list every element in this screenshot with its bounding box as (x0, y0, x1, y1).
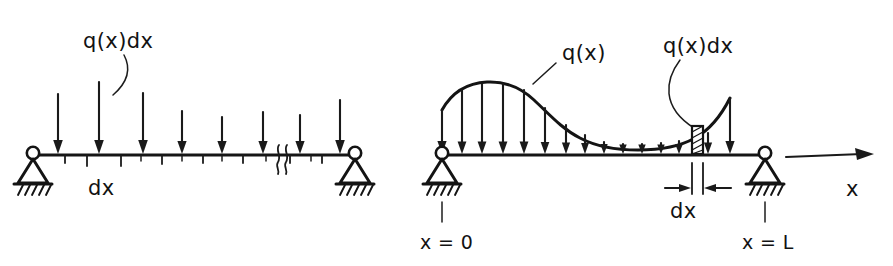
dx-dimension: dx (665, 163, 731, 223)
dx-element-strip (692, 126, 703, 154)
left-load-arrows (53, 82, 345, 154)
load-arrow (520, 90, 529, 154)
right-diagram: q(x) q(x)dx (420, 34, 874, 253)
right-diagram-left-support: x = 0 (420, 147, 473, 253)
left-load-resultant-label: q(x)dx (83, 29, 153, 53)
pin-triangle-icon (340, 159, 370, 183)
ground-hatching-icon (18, 185, 51, 195)
load-arrow (53, 94, 63, 154)
left-beam-break-symbol (277, 145, 287, 174)
load-arrow (138, 93, 148, 154)
left-beam-segment-ticks (65, 155, 322, 166)
load-arrow (295, 115, 304, 154)
station-label-x0: x = 0 (420, 231, 473, 253)
x-axis-shaft (786, 154, 862, 157)
left-beam-minor-ticks (141, 156, 311, 161)
dx-arrow-right-head (704, 184, 716, 192)
pin-circle-icon (349, 147, 361, 159)
load-arrow (258, 112, 267, 154)
ground-hatching-icon (427, 185, 460, 195)
curve-right-ordinate-head (725, 141, 734, 154)
left-dx-label: dx (88, 176, 115, 200)
x-axis-label: x (846, 177, 859, 201)
pin-triangle-icon (427, 159, 457, 183)
load-arrow (94, 82, 104, 154)
figure-canvas: q(x)dx (0, 0, 893, 266)
right-load-resultant-label: q(x)dx (663, 34, 733, 58)
load-arrow (478, 84, 487, 154)
x-axis: x (786, 148, 874, 201)
right-load-function-label: q(x) (562, 41, 606, 65)
x-axis-arrow-head (855, 148, 874, 160)
pin-circle-icon (759, 147, 771, 159)
pin-circle-icon (27, 147, 39, 159)
load-arrow (217, 117, 226, 154)
load-arrow (335, 100, 345, 154)
pin-triangle-icon (750, 159, 780, 183)
ground-hatching-icon (340, 185, 373, 195)
load-arrow (458, 90, 467, 154)
load-arrow (499, 83, 508, 154)
beam-load-figure: q(x)dx (0, 0, 893, 266)
pin-triangle-icon (18, 159, 48, 183)
right-load-arrows (458, 83, 712, 154)
right-dx-label: dx (670, 199, 697, 223)
pin-circle-icon (436, 147, 448, 159)
station-label-xL: x = L (742, 231, 794, 253)
load-arrow (177, 111, 186, 154)
load-arrow (704, 133, 712, 154)
load-arrow (562, 125, 570, 154)
right-diagram-right-support: x = L (742, 147, 794, 253)
right-q-leader-line (533, 63, 556, 84)
left-diagram: q(x)dx (14, 29, 374, 200)
dx-arrow-left-head (679, 184, 691, 192)
right-resultant-leader-line (669, 60, 694, 128)
left-leader-line (113, 55, 128, 95)
ground-hatching-icon (750, 185, 783, 195)
